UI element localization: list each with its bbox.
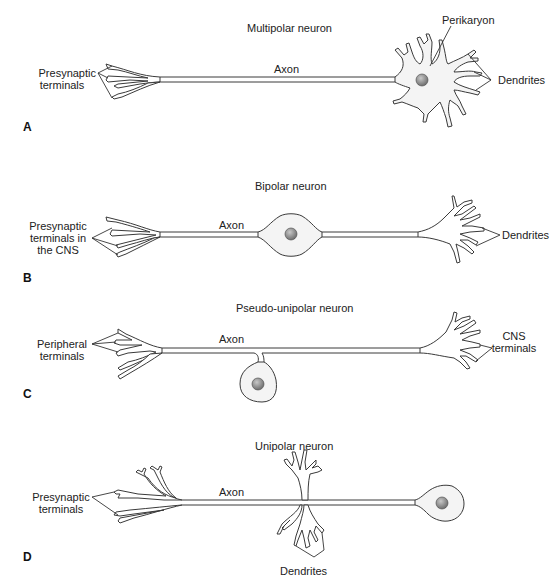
panel-b-axon-label: Axon — [219, 219, 244, 231]
panel-c-letter: C — [23, 387, 32, 401]
panel-d-dendrites-label: Dendrites — [280, 565, 327, 577]
neuron-types-figure: Multipolar neuron Presynaptic terminals … — [0, 0, 559, 582]
panel-d-letter: D — [23, 550, 32, 564]
label-line: Presynaptic — [30, 491, 92, 503]
panel-c-left-label: Peripheral terminals — [34, 338, 90, 362]
label-line: Presynaptic — [28, 67, 96, 79]
panel-b-left-label: Presynaptic terminals in the CNS — [26, 220, 90, 256]
panel-c-right-label: CNS terminals — [490, 330, 538, 354]
panel-d-title: Unipolar neuron — [255, 440, 333, 452]
panel-a-axon-label: Axon — [274, 63, 299, 75]
panel-c-title: Pseudo-unipolar neuron — [236, 302, 353, 314]
panel-a-title: Multipolar neuron — [247, 22, 332, 34]
label-line: the CNS — [26, 244, 90, 256]
pseudo-unipolar-neuron-drawing — [92, 312, 492, 402]
panel-d-left-label: Presynaptic terminals — [30, 491, 92, 515]
panel-a-letter: A — [23, 120, 32, 134]
label-line: Presynaptic — [26, 220, 90, 232]
label-line: Peripheral — [34, 338, 90, 350]
panel-c-axon-label: Axon — [219, 333, 244, 345]
panel-b-title: Bipolar neuron — [255, 180, 327, 192]
panel-a-perikaryon-label: Perikaryon — [442, 14, 495, 26]
label-line: terminals — [34, 350, 90, 362]
panel-b-letter: B — [23, 271, 32, 285]
label-line: terminals — [490, 342, 538, 354]
panel-a-left-label: Presynaptic terminals — [28, 67, 96, 91]
panel-b-dendrites-label: Dendrites — [502, 229, 549, 241]
bipolar-neuron-drawing — [92, 196, 500, 263]
panel-a-dendrites-label: Dendrites — [498, 74, 545, 86]
multipolar-neuron-drawing — [98, 26, 491, 127]
label-line: terminals — [28, 79, 96, 91]
panel-d-axon-label: Axon — [219, 486, 244, 498]
unipolar-neuron-drawing — [92, 450, 464, 557]
label-line: terminals — [30, 503, 92, 515]
label-line: terminals in — [26, 232, 90, 244]
label-line: CNS — [490, 330, 538, 342]
